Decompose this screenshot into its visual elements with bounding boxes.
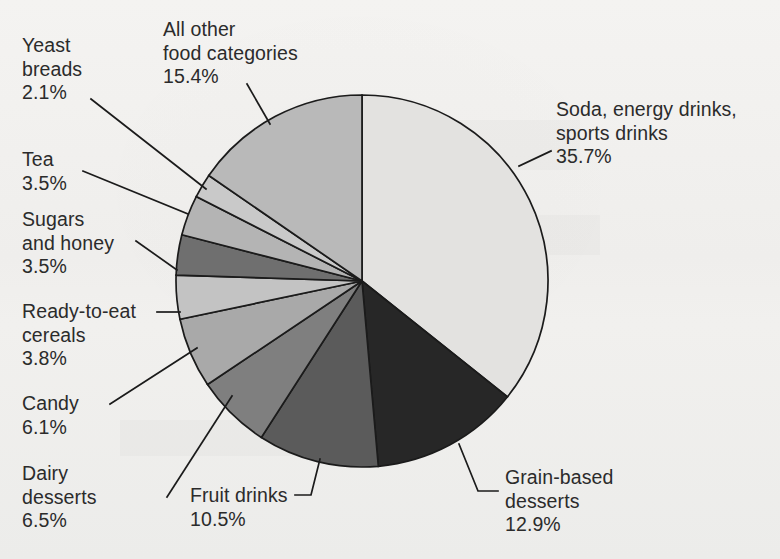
leader-line-dairy-desserts bbox=[167, 396, 232, 497]
pie-chart-canvas bbox=[0, 0, 780, 559]
slice-label-candy: Candy 6.1% bbox=[22, 392, 79, 439]
slice-label-ready-to-eat-cereals: Ready-to-eat cereals 3.8% bbox=[22, 300, 136, 371]
slice-label-fruit-drinks: Fruit drinks 10.5% bbox=[190, 484, 288, 531]
pie-slice-group bbox=[176, 95, 548, 467]
leader-line-fruit-drinks bbox=[295, 459, 320, 495]
leader-line-sugars-and-honey bbox=[136, 241, 177, 270]
leader-line-grain-based-desserts bbox=[459, 444, 498, 491]
slice-label-soda-energy-sports-drinks: Soda, energy drinks, sports drinks 35.7% bbox=[556, 98, 737, 169]
pie-chart-figure: Yeast breads 2.1% All other food categor… bbox=[0, 0, 780, 559]
slice-label-yeast-breads: Yeast breads 2.1% bbox=[22, 34, 82, 105]
leader-line-yeast-breads bbox=[91, 99, 206, 189]
slice-label-sugars-and-honey: Sugars and honey 3.5% bbox=[22, 208, 114, 279]
leader-line-soda bbox=[519, 151, 551, 166]
slice-label-grain-based-desserts: Grain-based desserts 12.9% bbox=[505, 466, 613, 537]
slice-label-tea: Tea 3.5% bbox=[22, 148, 67, 195]
slice-label-all-other-food-categories: All other food categories 15.4% bbox=[163, 18, 298, 89]
leader-line-all-other bbox=[247, 84, 270, 124]
slice-label-dairy-desserts: Dairy desserts 6.5% bbox=[22, 462, 97, 533]
